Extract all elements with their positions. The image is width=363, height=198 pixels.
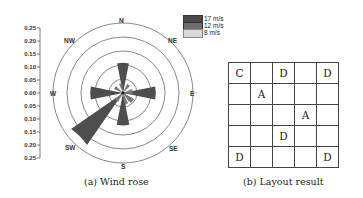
- grid-cell: [295, 147, 317, 168]
- grid-cell: [317, 84, 339, 105]
- grid-cell: [251, 126, 273, 147]
- grid-cell: [229, 126, 251, 147]
- wind-rose-sectors: [71, 63, 156, 145]
- direction-label-n: N: [119, 17, 124, 24]
- grid-cell: [251, 105, 273, 126]
- direction-label-s: S: [121, 163, 125, 170]
- grid-cell: [317, 105, 339, 126]
- grid-row: D D: [229, 147, 339, 168]
- layout-grid: C D D A A D D D: [228, 62, 339, 168]
- grid-cell: [273, 84, 295, 105]
- legend-label-12: 12 m/s: [204, 22, 224, 29]
- grid-cell: [317, 126, 339, 147]
- grid-cell: A: [295, 105, 317, 126]
- direction-label-ne: NE: [168, 37, 177, 44]
- caption-wind-rose: (a) Wind rose: [84, 176, 149, 187]
- grid-cell: [295, 63, 317, 84]
- grid-row: C D D: [229, 63, 339, 84]
- legend-swatch-8: [183, 29, 203, 38]
- grid-cell: C: [229, 63, 251, 84]
- caption-layout-result: (b) Layout result: [243, 176, 324, 187]
- grid-cell: [229, 84, 251, 105]
- grid-cell: [251, 63, 273, 84]
- legend-label-8: 8 m/s: [204, 29, 220, 36]
- direction-label-se: SE: [169, 145, 178, 152]
- grid-cell: [295, 84, 317, 105]
- direction-label-sw: SW: [65, 144, 75, 151]
- grid-cell: D: [317, 147, 339, 168]
- grid-cell: D: [229, 147, 251, 168]
- grid-cell: [295, 126, 317, 147]
- direction-label-e: E: [190, 90, 194, 97]
- grid-cell: [273, 105, 295, 126]
- grid-cell: A: [251, 84, 273, 105]
- legend-label-17: 17 m/s: [204, 15, 224, 22]
- grid-row: A: [229, 84, 339, 105]
- grid-cell: [229, 105, 251, 126]
- grid-row: D: [229, 126, 339, 147]
- grid-cell: D: [273, 126, 295, 147]
- direction-label-w: W: [50, 90, 56, 97]
- grid-cell: D: [317, 63, 339, 84]
- grid-cell: D: [273, 63, 295, 84]
- grid-row: A: [229, 105, 339, 126]
- grid-cell: [251, 147, 273, 168]
- direction-label-nw: NW: [64, 37, 75, 44]
- grid-cell: [273, 147, 295, 168]
